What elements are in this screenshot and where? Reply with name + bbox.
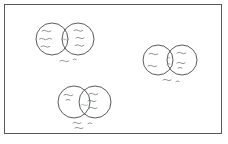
venn-2-overlap-label [139, 89, 140, 90]
venn-3-right-label [55, 135, 56, 136]
venn-3-left-circle[interactable] [58, 86, 90, 118]
venn-3-left-text [64, 94, 73, 100]
venn-3-overlap-label [55, 135, 56, 136]
venn-3-left-label [55, 135, 56, 136]
venn-diagram-1[interactable]: Venn diagram 1 (top left) [32, 18, 98, 70]
page-border: Venn diagram 1 (top left) [4, 4, 222, 134]
venn-diagram-3-graphic: Venn diagram 3 (bottom left) [55, 83, 117, 135]
venn-3-right-circle[interactable] [79, 86, 111, 118]
venn-2-right-circle[interactable] [167, 45, 197, 75]
venn-2-caption-label [139, 89, 140, 90]
venn-1-right-text [74, 30, 84, 47]
venn-1-left-label [32, 70, 33, 71]
venn-1-overlap-text [62, 39, 68, 40]
venn-1-right-label [32, 70, 33, 71]
venn-1-overlap-label [32, 70, 33, 71]
venn-diagram-2[interactable]: Venn diagram 2 (right) [139, 41, 201, 89]
venn-2-left-label [139, 89, 140, 90]
venn-1-caption [60, 59, 76, 62]
venn-1-right-circle[interactable] [62, 23, 94, 55]
screenshot-canvas: Venn diagram 1 (top left) [0, 0, 228, 144]
venn-2-right-text [177, 52, 186, 68]
venn-1-caption-label [32, 70, 33, 71]
venn-diagram-1-graphic: Venn diagram 1 (top left) [32, 18, 98, 70]
venn-1-left-text [40, 30, 52, 47]
venn-2-caption [163, 79, 179, 81]
venn-2-left-text [148, 53, 158, 67]
venn-3-overlap-text [81, 104, 87, 105]
venn-diagram-3[interactable]: Venn diagram 3 (bottom left) [55, 83, 117, 135]
venn-3-caption [73, 122, 92, 128]
venn-2-left-circle[interactable] [143, 45, 173, 75]
venn-3-caption-label [55, 135, 56, 136]
venn-diagram-2-graphic: Venn diagram 2 (right) [139, 41, 201, 89]
venn-2-right-label [139, 89, 140, 90]
